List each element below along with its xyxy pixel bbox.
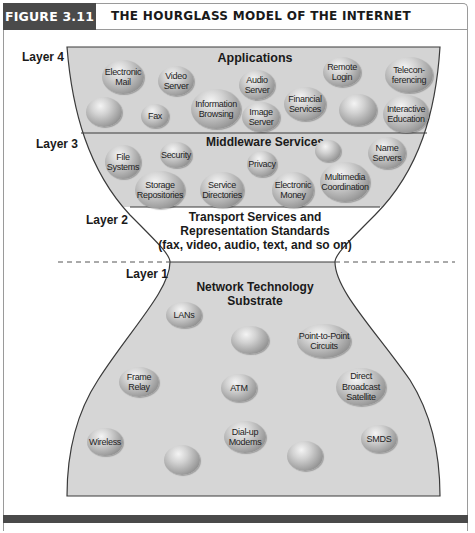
bubble-remote-login: Remote Login xyxy=(323,57,361,87)
bubble-blank xyxy=(315,140,341,162)
layer4-label: Layer 4 xyxy=(22,50,64,64)
bubble-blank xyxy=(86,97,122,127)
bubble-financial-services: Financial Services xyxy=(284,87,326,121)
bubble-blank xyxy=(164,445,200,475)
bubble-privacy: Privacy xyxy=(247,151,277,177)
bubble-interactive-education: Interactive Education xyxy=(383,95,429,133)
transport-title: Transport Services and Representation St… xyxy=(150,210,360,252)
bubble-lans: LANs xyxy=(166,302,202,328)
bubble-teleconferencing: Telecon- ferencing xyxy=(385,57,433,93)
bubble-smds: SMDS xyxy=(361,425,397,453)
bubble-file-systems: File Systems xyxy=(105,145,141,179)
bubble-storage-repositories: Storage Repositories xyxy=(135,171,185,209)
applications-title: Applications xyxy=(200,51,310,65)
transport-title-line2: Representation Standards xyxy=(150,224,360,238)
bubble-video-server: Video Server xyxy=(158,66,194,96)
bubble-name-servers: Name Servers xyxy=(368,137,406,169)
bubble-information-browsing: Information Browsing xyxy=(191,89,241,129)
bubble-electronic-money: Electronic Money xyxy=(272,172,314,208)
bubble-fax: Fax xyxy=(141,104,169,128)
bubble-multimedia-coordination: Multimedia Coordination xyxy=(320,162,370,202)
bubble-electronic-mail: Electronic Mail xyxy=(102,60,144,94)
bubble-wireless: Wireless xyxy=(87,428,123,456)
layer1-label: Layer 1 xyxy=(126,267,168,281)
bottom-bar xyxy=(3,515,468,523)
bubble-blank xyxy=(231,326,269,354)
bubble-direct-broadcast-satellite: Direct Broadcast Satellite xyxy=(336,368,386,406)
bubble-blank xyxy=(287,441,323,471)
bubble-dial-up-modems: Dial-up Modems xyxy=(224,421,266,453)
layer3-label: Layer 3 xyxy=(36,137,78,151)
bubble-atm: ATM xyxy=(221,374,257,402)
bubble-frame-relay: Frame Relay xyxy=(119,367,159,397)
transport-title-line3: (fax, video, audio, text, and so on) xyxy=(150,238,360,252)
bubble-security: Security xyxy=(160,142,192,168)
transport-title-line1: Transport Services and xyxy=(150,210,360,224)
network-title: Network Technology Substrate xyxy=(170,280,340,308)
bubble-service-directories: Service Directories xyxy=(200,172,244,208)
bubble-image-server: Image Server xyxy=(242,102,280,132)
layer2-label: Layer 2 xyxy=(86,213,128,227)
bubble-blank xyxy=(339,94,377,126)
bubble-point-to-point-circuits: Point-to-Point Circuits xyxy=(297,324,351,358)
bubble-audio-server: Audio Server xyxy=(239,70,275,100)
